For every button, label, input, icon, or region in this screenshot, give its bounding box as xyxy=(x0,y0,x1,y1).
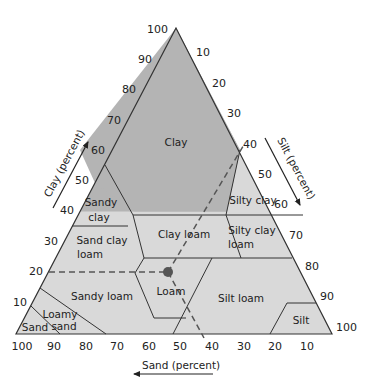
clay-tick-10: 10 xyxy=(13,296,27,309)
soil-texture-diagram: Clay Sandy clay Silty clay Sand clay loa… xyxy=(0,0,376,392)
silt-tick-100: 100 xyxy=(336,321,357,334)
sand-axis-label: Sand (percent) xyxy=(142,359,220,371)
sand-axis-title-group: Sand (percent) xyxy=(134,359,220,374)
label-silty-clay-loam-2: loam xyxy=(228,238,254,250)
label-sandy-loam: Sandy loam xyxy=(71,290,133,302)
label-loamy-sand-2: sand xyxy=(51,320,76,332)
label-silty-clay: Silty clay xyxy=(229,194,277,206)
label-clay-loam: Clay loam xyxy=(158,228,210,240)
label-sand-clay-loam-1: Sand clay xyxy=(76,234,127,246)
label-silty-clay-loam-1: Silty clay xyxy=(228,224,276,236)
clay-tick-60: 60 xyxy=(91,144,105,157)
sand-tick-50: 50 xyxy=(173,340,187,353)
clay-tick-50: 50 xyxy=(75,174,89,187)
example-point xyxy=(163,267,173,277)
clay-axis-title-group: Clay (percent) xyxy=(41,127,88,208)
sand-tick-60: 60 xyxy=(142,340,156,353)
sand-tick-40: 40 xyxy=(205,340,219,353)
sand-tick-10: 10 xyxy=(300,340,314,353)
silt-tick-80: 80 xyxy=(305,260,319,273)
silt-tick-10: 10 xyxy=(196,46,210,59)
clay-tick-20: 20 xyxy=(29,265,43,278)
label-silt: Silt xyxy=(293,314,310,326)
silt-tick-70: 70 xyxy=(289,229,303,242)
clay-tick-30: 30 xyxy=(44,235,58,248)
sand-tick-20: 20 xyxy=(268,340,282,353)
clay-tick-90: 90 xyxy=(138,53,152,66)
sand-axis-ticks: 100 90 80 70 60 50 40 30 20 10 xyxy=(12,340,315,353)
sand-tick-80: 80 xyxy=(79,340,93,353)
label-sand: Sand xyxy=(22,321,48,333)
label-loamy-sand-1: Loamy xyxy=(43,308,78,320)
clay-tick-80: 80 xyxy=(122,83,136,96)
sand-tick-30: 30 xyxy=(237,340,251,353)
label-clay: Clay xyxy=(165,136,188,148)
label-sand-clay-loam-2: loam xyxy=(77,248,103,260)
region-clay-fill-b xyxy=(80,28,240,212)
silt-axis-label: Silt (percent) xyxy=(275,135,318,201)
label-silt-loam: Silt loam xyxy=(218,292,264,304)
label-loam: Loam xyxy=(157,285,186,297)
silt-tick-40: 40 xyxy=(243,138,257,151)
label-sandy-clay-2: clay xyxy=(88,211,109,223)
sand-tick-70: 70 xyxy=(110,340,124,353)
clay-tick-70: 70 xyxy=(107,114,121,127)
silt-tick-60: 60 xyxy=(274,198,288,211)
sand-tick-100: 100 xyxy=(12,340,33,353)
silt-tick-30: 30 xyxy=(227,107,241,120)
silt-tick-50: 50 xyxy=(258,168,272,181)
clay-tick-100: 100 xyxy=(147,23,168,36)
silt-tick-20: 20 xyxy=(212,77,226,90)
label-sandy-clay-1: Sandy xyxy=(85,196,118,208)
silt-tick-90: 90 xyxy=(320,290,334,303)
sand-tick-90: 90 xyxy=(47,340,61,353)
clay-tick-40: 40 xyxy=(60,204,74,217)
